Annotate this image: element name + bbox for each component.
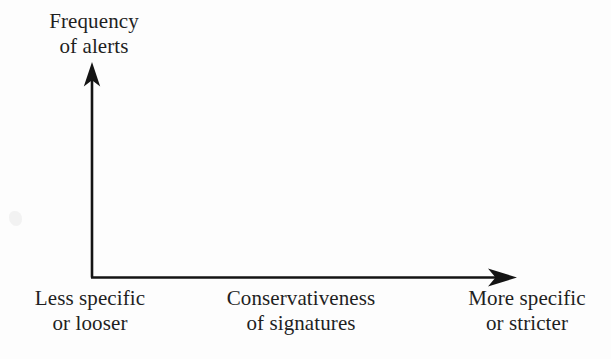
x-axis-left-end-label-line-1: Less specific — [26, 286, 154, 311]
x-axis-label-line-1: Conservativeness — [222, 286, 380, 311]
x-axis-right-end-label-line-2: or stricter — [460, 311, 594, 336]
axes-diagram: Frequency of alerts Less specific or loo… — [0, 0, 611, 359]
x-axis-right-end-label-line-1: More specific — [460, 286, 594, 311]
x-axis-left-end-label: Less specific or looser — [26, 286, 154, 336]
x-axis-label-line-2: of signatures — [222, 311, 380, 336]
y-axis-label-line-2: of alerts — [40, 34, 148, 59]
x-axis-right-end-label: More specific or stricter — [460, 286, 594, 336]
y-axis-label-line-1: Frequency — [40, 9, 148, 34]
x-axis-left-end-label-line-2: or looser — [26, 311, 154, 336]
x-axis-label: Conservativeness of signatures — [222, 286, 380, 336]
y-axis-label: Frequency of alerts — [40, 9, 148, 59]
